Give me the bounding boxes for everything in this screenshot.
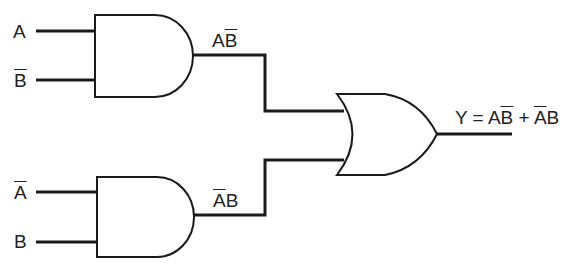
label-and2-output: AB — [213, 191, 238, 210]
label-input-abar: A — [14, 183, 27, 202]
label-and1-output: AB — [212, 31, 237, 50]
label-input-a: A — [13, 22, 26, 41]
circuit-diagram — [0, 0, 585, 270]
and-gate-2 — [97, 177, 194, 257]
label-input-bbar: B — [14, 71, 27, 90]
label-input-b: B — [14, 232, 27, 251]
or-gate — [337, 94, 437, 175]
wire-and1-output — [193, 55, 344, 111]
and-gate-1 — [95, 15, 193, 97]
label-or-output-expression: Y = AB + AB — [455, 108, 559, 127]
